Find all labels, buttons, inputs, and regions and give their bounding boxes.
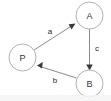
edge-p-to-a[interactable]: a (34, 24, 76, 51)
node-label-b: B (86, 79, 92, 89)
edge-label-c: c (95, 44, 99, 53)
edge-line-b-to-p (40, 67, 77, 79)
arrowhead-into-a (69, 24, 76, 30)
node-a[interactable]: A (76, 2, 103, 29)
edge-label-b: b (53, 76, 58, 85)
arrowhead-into-p (37, 62, 43, 69)
bottom-edge-band (0, 95, 111, 101)
edge-a-to-b[interactable]: c (86, 29, 99, 71)
directed-graph: a c b A P B (0, 0, 111, 101)
edge-b-to-p[interactable]: b (37, 62, 77, 85)
graph-canvas: a c b A P B (0, 0, 111, 101)
node-label-a: A (86, 11, 92, 21)
node-label-p: P (19, 53, 25, 63)
edge-line-p-to-a (34, 25, 73, 50)
node-p[interactable]: P (9, 44, 36, 71)
node-b[interactable]: B (76, 70, 103, 97)
edge-label-a: a (48, 27, 53, 36)
